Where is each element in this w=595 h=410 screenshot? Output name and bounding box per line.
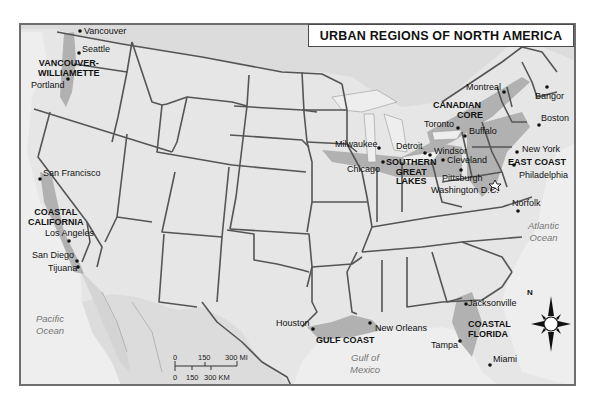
region-label-vancouver-williamette: VANCOUVER-WILLIAMETTE <box>38 59 100 78</box>
city-label-vancouver: Vancouver <box>84 26 126 36</box>
city-label-houston: Houston <box>276 318 310 328</box>
city-label-boston: Boston <box>541 113 569 123</box>
scale-km-150: 150 <box>186 373 199 382</box>
city-label-bangor: Bangor <box>535 91 564 101</box>
scale-km-0: 0 <box>173 373 177 382</box>
city-label-cleveland: Cleveland <box>447 155 487 165</box>
city-label-new-orleans: New Orleans <box>375 323 427 333</box>
water-label-pacific-ocean: PacificOcean <box>36 313 64 337</box>
city-label-new-york: New York <box>522 144 560 154</box>
city-label-miami: Miami <box>493 354 517 364</box>
city-label-jacksonville: Jacksonville <box>468 298 517 308</box>
city-label-seattle: Seattle <box>82 44 110 54</box>
city-label-milwaukee: Milwaukee <box>335 139 378 149</box>
region-label-gulf-coast: GULF COAST <box>316 336 375 346</box>
city-label-los-angeles: Los Angeles <box>45 228 94 238</box>
city-label-san-diego: San Diego <box>32 250 74 260</box>
city-label-chicago: Chicago <box>347 164 380 174</box>
city-label-tijuana: Tijuana <box>48 263 77 273</box>
city-label-toronto: Toronto <box>424 119 454 129</box>
city-label-montreal: Montreal <box>466 82 501 92</box>
region-label-coastal-california: COASTALCALIFORNIA <box>28 208 84 227</box>
city-label-buffalo: Buffalo <box>469 126 497 136</box>
city-label-pittsburgh: Pittsburgh <box>442 173 483 183</box>
water-label-atlantic-ocean: AtlanticOcean <box>528 220 559 244</box>
city-label-norfolk: Norfolk <box>512 198 541 208</box>
scale-mi-150: 150 <box>198 353 211 362</box>
city-label-san-francisco: San Francisco <box>43 168 101 178</box>
city-label-portland: Portland <box>31 80 65 90</box>
scale-mi-0: 0 <box>173 353 177 362</box>
scale-km-300: 300 KM <box>204 373 230 382</box>
city-label-washington-dc: Washington D.C. <box>431 185 499 195</box>
city-label-detroit: Detroit <box>396 141 423 151</box>
city-label-tampa: Tampa <box>431 340 458 350</box>
water-label-gulf-of-mexico: Gulf ofMexico <box>350 352 380 376</box>
region-label-east-coast: EAST COAST <box>508 158 566 168</box>
region-label-canadian-core: CANADIANCORE <box>431 101 483 120</box>
compass-north-label: N <box>527 288 533 297</box>
region-label-southern-great-lakes: SOUTHERNGREATLAKES <box>386 158 437 187</box>
city-label-philadelphia: Philadelphia <box>519 170 568 180</box>
scale-mi-300: 300 MI <box>225 353 248 362</box>
region-label-coastal-florida: COASTALFLORIDA <box>468 320 511 339</box>
